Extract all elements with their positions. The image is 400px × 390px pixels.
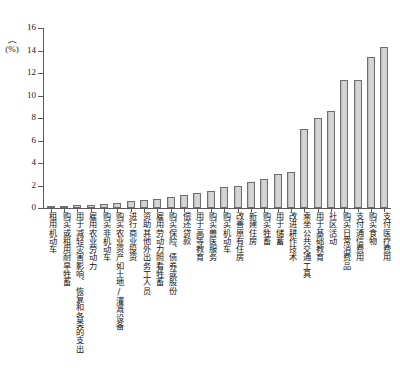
- bar: [167, 197, 175, 208]
- x-axis-category-label: 偿还贷款: [179, 212, 190, 245]
- y-axis-tick-label: 4: [14, 158, 36, 167]
- bar: [260, 179, 268, 208]
- bar: [274, 174, 282, 208]
- bar: [314, 118, 322, 208]
- x-axis-category-labels: 租用机动车购买或租用耐旱牲畜用于减轻灾害影响、恢复和各类的支出雇用农业劳动力购买…: [44, 212, 391, 387]
- x-axis-line: [43, 208, 391, 209]
- bar: [180, 195, 188, 209]
- bar: [113, 203, 121, 208]
- x-axis-category-label: 购买保险、债券或股份: [165, 212, 176, 295]
- bar: [380, 47, 388, 208]
- x-axis-category-label: 购买牲畜: [259, 212, 270, 245]
- y-axis-tick: [38, 208, 44, 209]
- x-axis-category-label: 支付医疗费用: [379, 212, 390, 262]
- x-axis-category-label: 雇用劳动力照看牲畜: [152, 212, 163, 287]
- y-axis-tick-label: 6: [14, 136, 36, 145]
- bar-chart: （ (%) 0246810121416 租用机动车购买或租用耐旱牲畜用于减轻灾害…: [0, 0, 400, 390]
- bar: [367, 57, 375, 208]
- x-axis-category-label: 购买或租用耐旱牲畜: [59, 212, 70, 287]
- x-axis-category-label: 购买日常消费品: [339, 212, 350, 270]
- x-axis-category-label: 用于高等教育: [192, 212, 203, 262]
- x-axis-category-label: 用于储蓄: [272, 212, 283, 245]
- bar: [60, 206, 68, 208]
- plot-area: [44, 28, 391, 208]
- x-axis-category-label: 支付通信费用: [352, 212, 363, 262]
- x-axis-category-label: 购买机动车: [219, 212, 230, 254]
- bar: [247, 182, 255, 208]
- bar: [140, 200, 148, 208]
- bar: [354, 80, 362, 208]
- x-axis-category-label: 社区活动: [325, 212, 336, 245]
- x-axis-category-label: 乘坐公共交通工具: [299, 212, 310, 278]
- bar: [47, 206, 55, 208]
- y-axis-tick-label: 16: [14, 23, 36, 32]
- bar: [220, 187, 228, 208]
- bar: [287, 172, 295, 208]
- x-axis-category-label: 改进耕作技术: [285, 212, 296, 262]
- y-axis-tick-label: 12: [14, 68, 36, 77]
- bar: [73, 205, 81, 208]
- y-axis-tick-label: 10: [14, 91, 36, 100]
- y-axis-tick-label: 0: [14, 203, 36, 212]
- x-axis-category-label: 购买农业资产如土地/灌溉设备: [112, 212, 123, 330]
- bar: [153, 199, 161, 208]
- x-axis-category-label: 用于减轻灾害影响、恢复和各类的支出: [72, 212, 83, 353]
- bar: [127, 201, 135, 208]
- x-axis-category-label: 购买食物: [365, 212, 376, 245]
- x-axis-category-label: 购买兽医服务: [205, 212, 216, 262]
- x-axis-category-label: 用于基础教育: [312, 212, 323, 262]
- y-axis-tick-label: 2: [14, 181, 36, 190]
- x-axis-category-label: 进行商业投资: [125, 212, 136, 262]
- y-axis-tick-label: 14: [14, 46, 36, 55]
- x-axis-category-label: 雇用农业劳动力: [85, 212, 96, 270]
- bar: [340, 80, 348, 208]
- bar: [193, 193, 201, 208]
- x-axis-category-label: 改善原有住房: [232, 212, 243, 262]
- y-axis-tick-label: 8: [14, 113, 36, 122]
- bar: [327, 111, 335, 208]
- x-axis-category-label: 租用机动车: [45, 212, 56, 254]
- x-axis-category-label: 新建住房: [245, 212, 256, 245]
- bar: [87, 205, 95, 208]
- x-axis-category-label: 资助其他外出务工人员: [139, 212, 150, 295]
- bar: [234, 186, 242, 209]
- bar: [300, 129, 308, 208]
- x-axis-category-label: 购买非机动车: [99, 212, 110, 262]
- bar: [207, 191, 215, 208]
- bar: [100, 204, 108, 208]
